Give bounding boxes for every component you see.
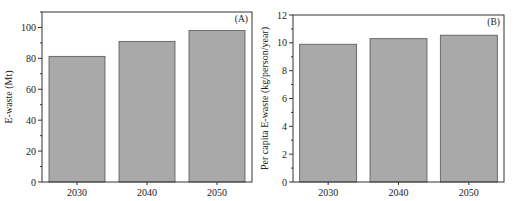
panel-a-ewaste-chart: 203020402050020406080100E-waste (Mt)(A): [3, 12, 252, 198]
bar-2040: [370, 39, 427, 182]
bar-2050: [440, 35, 497, 182]
y-tick-label: 12: [277, 10, 287, 21]
x-tick-label: 2050: [207, 187, 227, 198]
x-tick-label: 2040: [389, 187, 409, 198]
x-tick-label: 2040: [137, 187, 157, 198]
y-tick-label: 4: [282, 121, 287, 132]
y-tick-label: 100: [21, 22, 36, 33]
y-tick-label: 20: [26, 146, 36, 157]
x-tick-label: 2030: [318, 187, 338, 198]
y-tick-label: 8: [282, 65, 287, 76]
x-tick-label: 2030: [67, 187, 87, 198]
y-tick-label: 0: [31, 177, 36, 188]
panel-b-per-capita-chart: 203020402050024681012Per capita E-waste …: [259, 10, 504, 199]
y-tick-label: 60: [26, 84, 36, 95]
y-tick-label: 10: [277, 37, 287, 48]
y-axis-title: Per capita E-waste (kg/person/year): [259, 27, 271, 170]
bar-2030: [300, 44, 357, 182]
figure: 203020402050020406080100E-waste (Mt)(A) …: [0, 0, 514, 201]
panel-label: (B): [487, 17, 500, 28]
bar-2050: [189, 31, 245, 182]
y-tick-label: 0: [282, 177, 287, 188]
x-tick-label: 2050: [459, 187, 479, 198]
bar-2040: [119, 41, 175, 182]
y-tick-label: 6: [282, 93, 287, 104]
y-tick-label: 40: [26, 115, 36, 126]
bar-2030: [49, 56, 105, 182]
y-tick-label: 80: [26, 53, 36, 64]
y-tick-label: 2: [282, 149, 287, 160]
panel-label: (A): [235, 14, 248, 25]
y-axis-title: E-waste (Mt): [3, 70, 15, 123]
